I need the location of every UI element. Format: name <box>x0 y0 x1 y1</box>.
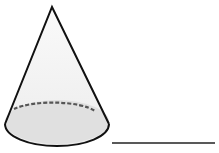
cone-diagram <box>0 0 219 153</box>
